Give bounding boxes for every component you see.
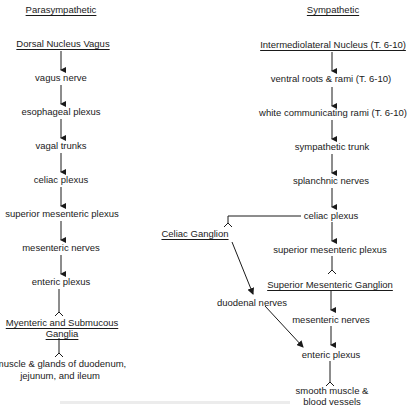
parasympathetic-title: Parasympathetic — [26, 4, 97, 15]
node-enteric-plexus-para: enteric plexus — [32, 276, 91, 287]
node-intermediolateral-nucleus: Intermediolateral Nucleus (T. 6-10) — [260, 39, 406, 50]
node-vagus-nerve: vagus nerve — [35, 72, 87, 83]
node-vagal-trunks: vagal trunks — [35, 140, 86, 151]
node-mesenteric-nerves-para: mesenteric nerves — [22, 242, 100, 253]
node-splanchnic-nerves: splanchnic nerves — [293, 175, 369, 186]
node-myenteric-submucous-line1: Myenteric and Submucous — [6, 317, 118, 328]
sympathetic-title: Sympathetic — [307, 4, 359, 15]
node-myenteric-submucous-line2: Ganglia — [46, 328, 79, 339]
node-celiac-plexus-symp: celiac plexus — [304, 210, 358, 221]
node-sympathetic-trunk: sympathetic trunk — [295, 141, 369, 152]
node-superior-mesenteric-plexus-symp: superior mesenteric plexus — [273, 244, 387, 255]
node-target-para-line1: muscle & glands of duodenum, — [0, 358, 126, 369]
node-celiac-plexus-para: celiac plexus — [34, 174, 88, 185]
node-superior-mesenteric-ganglion: Superior Mesenteric Ganglion — [267, 279, 393, 290]
node-dorsal-nucleus-vagus: Dorsal Nucleus Vagus — [16, 38, 109, 49]
node-target-symp-line1: smooth muscle & — [296, 385, 369, 396]
node-target-para-line2: jejunum, and ileum — [20, 370, 100, 381]
node-enteric-plexus-symp: enteric plexus — [302, 349, 361, 360]
node-mesenteric-nerves-symp: mesenteric nerves — [292, 314, 370, 325]
node-ventral-roots: ventral roots & rami (T. 6-10) — [271, 73, 391, 84]
node-esophageal-plexus: esophageal plexus — [21, 106, 100, 117]
node-white-communicating-rami: white communicating rami (T. 6-10) — [259, 107, 407, 118]
node-celiac-ganglion: Celiac Ganglion — [161, 228, 228, 239]
node-duodenal-nerves: duodenal nerves — [217, 297, 287, 308]
node-superior-mesenteric-plexus-para: superior mesenteric plexus — [5, 208, 119, 219]
node-target-symp-line2: blood vessels — [303, 396, 361, 407]
faint-caption-smudge — [60, 401, 290, 404]
